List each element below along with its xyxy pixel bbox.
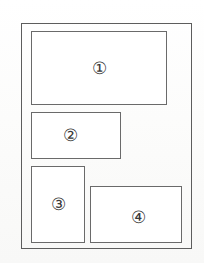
diagram-canvas: ① ② ③ ④: [0, 0, 204, 263]
region-2[interactable]: ②: [31, 112, 121, 159]
region-1-label: ①: [92, 60, 107, 77]
region-4[interactable]: ④: [90, 186, 182, 243]
region-2-label: ②: [63, 127, 78, 144]
region-4-label: ④: [131, 209, 146, 226]
region-3-label: ③: [51, 196, 66, 213]
region-1[interactable]: ①: [31, 31, 167, 105]
region-3[interactable]: ③: [31, 166, 85, 243]
